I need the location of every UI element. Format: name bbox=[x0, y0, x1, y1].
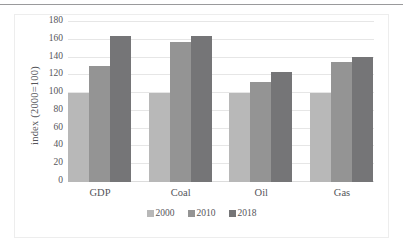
x-axis-category-label: Gas bbox=[310, 187, 374, 198]
bar bbox=[110, 36, 131, 182]
x-axis-category-label: Oil bbox=[229, 187, 293, 198]
bar bbox=[331, 62, 352, 182]
bar bbox=[68, 93, 89, 182]
y-axis-tick-label: 60 bbox=[23, 123, 63, 133]
legend-label: 2010 bbox=[197, 208, 216, 218]
y-axis-tick-label: 140 bbox=[23, 52, 63, 62]
legend-swatch-icon bbox=[229, 210, 236, 217]
bar bbox=[191, 36, 212, 182]
x-axis-category-labels: GDPCoalOilGas bbox=[68, 187, 374, 198]
bar-groups bbox=[68, 22, 374, 182]
legend-item: 2018 bbox=[229, 208, 257, 218]
x-axis-category-label: GDP bbox=[68, 187, 132, 198]
bar-group bbox=[149, 22, 213, 182]
y-axis-tick-label: 40 bbox=[23, 141, 63, 151]
y-axis-tick-label: 100 bbox=[23, 87, 63, 97]
y-axis-tick-label: 160 bbox=[23, 34, 63, 44]
chart-legend: 200020102018 bbox=[0, 208, 403, 218]
bar bbox=[250, 82, 271, 182]
bar-chart: index (2000=100) 02040608010012014016018… bbox=[0, 0, 403, 250]
legend-item: 2000 bbox=[147, 208, 175, 218]
legend-swatch-icon bbox=[188, 210, 195, 217]
legend-swatch-icon bbox=[147, 210, 154, 217]
bar bbox=[310, 93, 331, 182]
y-axis-tick-label: 20 bbox=[23, 158, 63, 168]
bar-group bbox=[68, 22, 132, 182]
legend-label: 2018 bbox=[238, 208, 257, 218]
y-axis-tick-label: 80 bbox=[23, 105, 63, 115]
bar bbox=[170, 42, 191, 182]
bar bbox=[89, 66, 110, 182]
y-axis-tick-label: 0 bbox=[23, 176, 63, 186]
x-axis-category-label: Coal bbox=[149, 187, 213, 198]
bar bbox=[271, 72, 292, 182]
y-axis-tick-label: 180 bbox=[23, 16, 63, 26]
y-axis-tick-label: 120 bbox=[23, 70, 63, 80]
legend-label: 2000 bbox=[156, 208, 175, 218]
bar-group bbox=[310, 22, 374, 182]
plot-area: 020406080100120140160180 bbox=[68, 22, 374, 182]
legend-item: 2010 bbox=[188, 208, 216, 218]
bar bbox=[229, 93, 250, 182]
bar bbox=[352, 57, 373, 182]
bar-group bbox=[229, 22, 293, 182]
bar bbox=[149, 93, 170, 182]
